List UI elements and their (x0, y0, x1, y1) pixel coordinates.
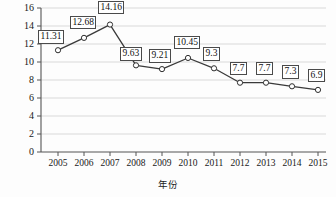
data-point-marker (211, 66, 216, 71)
data-value-label: 9.21 (149, 49, 171, 63)
data-point-marker (81, 35, 86, 40)
x-axis-title: 年份 (0, 177, 336, 191)
data-point-marker (133, 63, 138, 68)
data-value-label: 9.3 (203, 47, 220, 61)
y-tick-label: 10 (12, 57, 34, 67)
y-tick-label: 16 (12, 3, 34, 13)
data-value-label: 12.68 (70, 16, 96, 30)
y-tick-label: 8 (12, 75, 34, 85)
data-point-marker (315, 87, 320, 92)
data-point-marker (289, 84, 294, 89)
data-value-label: 7.7 (230, 62, 247, 76)
data-value-label: 9.63 (120, 47, 142, 61)
data-value-label: 7.3 (282, 65, 299, 79)
economic-growth-line-chart: 经济增速(%) 年份 0246810121416 200520062007200… (0, 0, 336, 197)
y-tick-label: 0 (12, 147, 34, 157)
x-axis-ticks (58, 152, 318, 156)
data-value-label: 11.31 (38, 30, 64, 44)
data-value-label: 10.45 (174, 36, 200, 50)
data-point-marker (159, 67, 164, 72)
y-tick-label: 12 (12, 39, 34, 49)
x-tick-label: 2015 (301, 158, 335, 168)
y-tick-label: 4 (12, 111, 34, 121)
data-point-marker (263, 80, 268, 85)
data-value-label: 7.7 (256, 62, 273, 76)
data-value-label: 14.16 (98, 1, 124, 15)
y-tick-label: 14 (12, 21, 34, 31)
y-tick-label: 6 (12, 93, 34, 103)
y-tick-label: 2 (12, 129, 34, 139)
data-point-marker (55, 48, 60, 53)
data-point-marker (237, 80, 242, 85)
data-point-marker (185, 55, 190, 60)
data-point-marker (107, 22, 112, 27)
data-value-label: 6.9 (308, 69, 325, 83)
